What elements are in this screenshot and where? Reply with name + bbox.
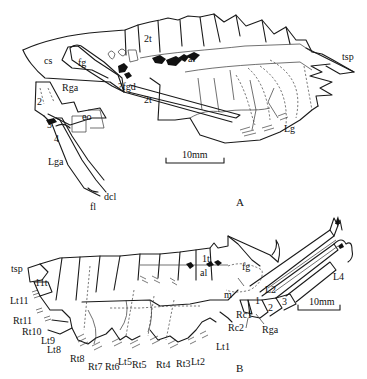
label-lt11: Lt11 (10, 296, 29, 306)
label-2t-upper: 2t (144, 34, 152, 44)
label-11t: 11t (35, 278, 47, 288)
label-seg4-a: 4 (54, 134, 59, 144)
label-1t: 1t (202, 254, 210, 264)
label-rt5: Rt5 (132, 360, 146, 370)
label-seg2-a: 2 (37, 97, 42, 107)
label-lt5: Lt5 (118, 357, 132, 367)
label-dcl: dcl (104, 192, 116, 202)
panel-label-b: B (236, 362, 243, 374)
label-m: m (224, 290, 232, 300)
label-rt3: Rt3 (176, 359, 190, 369)
label-2t-lower: 2t (144, 95, 152, 105)
label-al-b: al (200, 268, 207, 278)
label-rt10: Rt10 (22, 327, 41, 337)
label-seg3-b: 3 (282, 297, 287, 307)
label-rt4: Rt4 (156, 360, 170, 370)
label-rga-b: Rga (262, 325, 278, 335)
label-fgd: ?fgd (118, 82, 136, 92)
label-fl: fl (90, 202, 96, 212)
panel-label-a: A (236, 196, 244, 208)
label-fg-b: fg (242, 262, 250, 272)
figure-drawing (0, 0, 367, 379)
label-seg3-a: 3 (47, 120, 52, 130)
label-rga-a: Rga (62, 83, 78, 93)
label-tsp-a: tsp (342, 52, 354, 62)
label-seg1-b: 1 (255, 296, 260, 306)
label-lt1: Lt1 (216, 342, 230, 352)
label-al: al (188, 54, 195, 64)
label-lt8: Lt8 (47, 345, 61, 355)
label-rt8: Rt8 (70, 354, 84, 364)
label-seg2-b: 2 (268, 303, 273, 313)
scale-bar-b-label: 10mm (309, 297, 335, 307)
label-rc2: Rc2 (228, 323, 244, 333)
label-l2: L2 (265, 285, 276, 295)
label-eo: eo (82, 112, 91, 122)
label-l4: L4 (333, 272, 344, 282)
label-rt11: Rt11 (13, 316, 32, 326)
label-lga: Lga (48, 157, 64, 167)
label-rt7: Rt7 (88, 362, 102, 372)
panel-a-drawing (23, 14, 354, 196)
panel-b-drawing (28, 216, 353, 350)
label-tsp-b: tsp (11, 264, 23, 274)
label-rc1: Rc1 (236, 310, 252, 320)
scale-bar-a-label: 10mm (182, 150, 208, 160)
label-fg: fg (78, 58, 86, 68)
label-lt2: Lt2 (191, 357, 205, 367)
label-lg: Lg (284, 124, 295, 134)
label-cs: cs (44, 56, 52, 66)
